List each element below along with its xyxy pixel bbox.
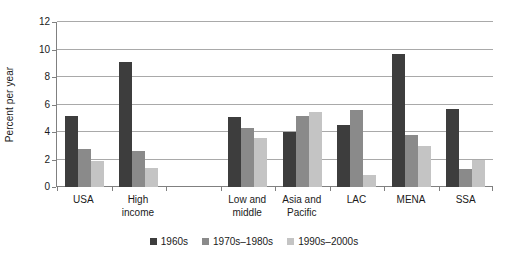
y-tick-label: 2 xyxy=(26,154,50,165)
y-tick-label: 0 xyxy=(26,181,50,192)
bar xyxy=(418,146,431,187)
x-axis-label: High income xyxy=(111,193,166,219)
y-tick-label: 6 xyxy=(26,99,50,110)
bar xyxy=(254,138,267,188)
legend-item: 1990s–2000s xyxy=(287,236,358,247)
bar xyxy=(472,160,485,188)
chart-legend: 1960s1970s–1980s1990s–2000s xyxy=(0,236,508,247)
y-tick-mark xyxy=(52,187,56,188)
bar xyxy=(296,116,309,188)
x-axis-label: LAC xyxy=(329,193,384,219)
y-tick-label: 10 xyxy=(26,44,50,55)
bar-group xyxy=(330,22,385,187)
bar xyxy=(309,112,322,187)
legend-swatch-icon xyxy=(150,238,157,245)
y-axis-title: Percent per year xyxy=(2,22,16,187)
y-tick-label: 12 xyxy=(26,16,50,27)
bar-group xyxy=(166,22,221,187)
bar-group xyxy=(221,22,276,187)
legend-item: 1960s xyxy=(150,236,188,247)
bar xyxy=(405,135,418,187)
bar xyxy=(119,62,132,187)
x-tick-mark xyxy=(112,187,113,191)
x-tick-mark xyxy=(384,187,385,191)
x-tick-mark-end xyxy=(492,187,493,191)
bar-group xyxy=(275,22,330,187)
x-axis-label xyxy=(165,193,220,219)
bar xyxy=(78,149,91,188)
bar xyxy=(337,125,350,187)
bar-groups xyxy=(57,22,493,187)
bar xyxy=(145,168,158,187)
x-axis-label: Low and middle xyxy=(220,193,275,219)
x-axis-label: SSA xyxy=(438,193,493,219)
bar xyxy=(459,169,472,187)
bar-group xyxy=(384,22,439,187)
bar xyxy=(283,132,296,187)
y-tick-label: 8 xyxy=(26,71,50,82)
bar xyxy=(363,175,376,187)
x-axis-label: USA xyxy=(56,193,111,219)
bar xyxy=(350,110,363,187)
legend-label: 1960s xyxy=(161,236,188,247)
x-tick-mark xyxy=(275,187,276,191)
bar-group xyxy=(112,22,167,187)
x-tick-mark xyxy=(330,187,331,191)
bar xyxy=(91,161,104,187)
legend-label: 1990s–2000s xyxy=(298,236,358,247)
bar-chart-figure: Percent per year 024681012 USAHigh incom… xyxy=(0,0,508,267)
bar xyxy=(446,109,459,187)
x-tick-mark xyxy=(221,187,222,191)
x-tick-mark xyxy=(166,187,167,191)
plot-area xyxy=(56,22,493,187)
bar-group xyxy=(439,22,494,187)
y-tick-label: 4 xyxy=(26,126,50,137)
legend-swatch-icon xyxy=(287,238,294,245)
x-axis-category-labels: USAHigh incomeLow and middleAsia and Pac… xyxy=(56,193,493,219)
legend-item: 1970s–1980s xyxy=(202,236,273,247)
x-axis-label: Asia and Pacific xyxy=(275,193,330,219)
bar xyxy=(241,128,254,187)
bar xyxy=(392,54,405,187)
legend-label: 1970s–1980s xyxy=(213,236,273,247)
x-tick-mark xyxy=(439,187,440,191)
bar xyxy=(132,151,145,187)
bar xyxy=(65,116,78,188)
legend-swatch-icon xyxy=(202,238,209,245)
x-axis-label: MENA xyxy=(384,193,439,219)
bar xyxy=(228,117,241,187)
x-tick-mark xyxy=(57,187,58,191)
bar-group xyxy=(57,22,112,187)
